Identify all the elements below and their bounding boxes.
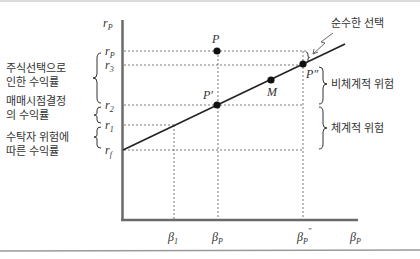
y-axis-label: rP [103, 16, 113, 32]
x-axis-label: βP [349, 230, 361, 246]
annotation-trustee-risk-line2: 따른 수익률 [6, 145, 60, 158]
security-market-line [123, 44, 345, 150]
brace-unsystematic-risk [319, 67, 327, 104]
annotation-market-timing-line2: 의 수익률 [6, 109, 50, 122]
point-m [267, 76, 274, 83]
annotation-trustee-risk-line1: 수탁자 위험에 [6, 131, 70, 144]
tick-r3: r3 [105, 58, 114, 74]
tick-betap: βP [211, 230, 223, 246]
label-p: P [211, 32, 220, 46]
annotation-market-timing-line1: 매매시점결정 [6, 95, 66, 108]
left-annotations: 주식선택으로 인한 수익률 매매시점결정 의 수익률 수탁자 위험에 따른 수익… [6, 62, 70, 158]
brace-market-timing [94, 107, 101, 123]
tick-r1: r1 [105, 118, 114, 134]
annotation-unsystematic-risk: 비체계적 위험 [331, 78, 395, 91]
y-tick-labels: rP r3 r2 r1 rf [105, 44, 115, 159]
callout-pure-selection: 순수한 선택 [331, 17, 385, 30]
x-tick-labels: β1 βP βP″ βP [167, 227, 361, 246]
label-p-double-prime: P″ [305, 67, 319, 81]
brace-systematic-risk [319, 107, 327, 149]
brace-stock-selection [93, 53, 101, 103]
tick-rf: rf [105, 143, 114, 159]
tick-r2: r2 [105, 98, 114, 114]
point-p-prime [213, 101, 220, 108]
left-braces [93, 53, 101, 148]
point-p [213, 47, 220, 54]
annotation-stock-selection-line1: 주식선택으로 [6, 62, 66, 75]
tick-betap-double-prime: βP″ [296, 227, 312, 246]
label-p-prime: P′ [202, 88, 213, 102]
annotation-stock-selection-line2: 인한 수익률 [6, 76, 60, 89]
bottom-rule [0, 250, 420, 251]
capm-performance-diagram: P P′ M P″ rP rP r3 r2 r1 rf β1 βP βP″ βP… [0, 0, 420, 259]
tick-beta1: β1 [167, 230, 178, 246]
brace-trustee-risk [94, 127, 101, 148]
label-m: M [266, 85, 278, 99]
annotation-systematic-risk: 체계적 위험 [331, 122, 385, 135]
